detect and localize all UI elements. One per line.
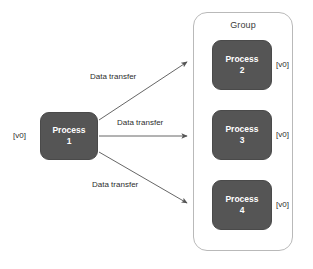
process-node-1[interactable]: Process 1 (40, 112, 98, 160)
process-node-4-version-label: [v0] (276, 200, 289, 209)
edge-line-process1-to-process4 (99, 152, 187, 203)
process-node-3-version-label: [v0] (276, 130, 289, 139)
process-node-4-number: 4 (240, 205, 245, 216)
edge-label-process1-to-process3: Data transfer (117, 118, 163, 127)
process-node-3-number: 3 (240, 135, 245, 146)
process-node-3-name: Process (225, 124, 258, 135)
process-node-1-number: 1 (67, 136, 72, 147)
process-node-3[interactable]: Process 3 (212, 110, 272, 160)
group-title: Group (193, 20, 293, 30)
process-node-2-version-label: [v0] (276, 60, 289, 69)
process-node-4[interactable]: Process 4 (212, 180, 272, 230)
process-node-1-version-label: [v0] (13, 131, 26, 140)
edge-label-process1-to-process4: Data transfer (92, 180, 138, 189)
process-node-4-name: Process (225, 194, 258, 205)
process-node-1-name: Process (52, 125, 85, 136)
process-node-2-name: Process (225, 54, 258, 65)
edge-line-process1-to-process2 (99, 62, 187, 120)
process-node-2[interactable]: Process 2 (212, 40, 272, 90)
edge-label-process1-to-process2: Data transfer (90, 72, 136, 81)
process-node-2-number: 2 (240, 65, 245, 76)
diagram-canvas: Group Process 1 [v0] Process 2 [v0] Proc… (0, 0, 313, 269)
